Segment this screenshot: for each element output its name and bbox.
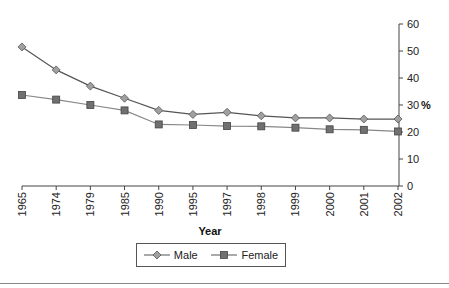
diamond-marker-icon	[52, 66, 60, 74]
series-line-male	[22, 47, 398, 119]
x-tick-label: 1990	[153, 192, 165, 216]
legend-label-male: Male	[174, 249, 198, 261]
plot-area: 1965197419791985199019951997199819992000…	[16, 18, 419, 216]
square-marker-icon	[53, 96, 60, 103]
square-marker-icon	[211, 250, 237, 260]
square-marker-icon	[258, 123, 265, 130]
square-marker-icon	[189, 121, 196, 128]
x-tick-label: 2002	[392, 192, 404, 216]
y-tick-label: 0	[407, 180, 413, 192]
square-marker-icon	[395, 128, 402, 135]
x-tick-label: 1979	[84, 192, 96, 216]
diamond-marker-icon	[394, 115, 402, 123]
x-tick-label: 2001	[358, 192, 370, 216]
square-marker-icon	[224, 123, 231, 130]
square-marker-icon	[155, 121, 162, 128]
y-tick-label: 30	[407, 99, 419, 111]
diamond-marker-icon	[86, 82, 94, 90]
x-tick-label: 1974	[50, 192, 62, 216]
x-tick-label: 1997	[221, 192, 233, 216]
legend-item-female: Female	[211, 249, 278, 261]
y-tick-label: 20	[407, 126, 419, 138]
diamond-marker-icon	[144, 250, 170, 260]
square-marker-icon	[360, 126, 367, 133]
square-marker-icon	[292, 124, 299, 131]
x-tick-label: 2000	[324, 192, 336, 216]
y-tick-label: 40	[407, 72, 419, 84]
diamond-marker-icon	[360, 115, 368, 123]
diamond-marker-icon	[155, 106, 163, 114]
diamond-marker-icon	[257, 112, 265, 120]
y-axis-title: %	[421, 99, 431, 111]
diamond-marker-icon	[189, 110, 197, 118]
diamond-marker-icon	[326, 114, 334, 122]
legend: Male Female	[136, 243, 286, 267]
y-tick-label: 10	[407, 153, 419, 165]
diamond-marker-icon	[223, 108, 231, 116]
x-tick-label: 1965	[16, 192, 28, 216]
y-tick-label: 60	[407, 18, 419, 30]
x-axis-title: Year	[198, 225, 222, 237]
square-marker-icon	[121, 107, 128, 114]
diamond-marker-icon	[18, 43, 26, 51]
x-tick-label: 1998	[255, 192, 267, 216]
legend-item-male: Male	[144, 249, 198, 261]
legend-label-female: Female	[241, 249, 278, 261]
square-marker-icon	[87, 102, 94, 109]
x-tick-label: 1995	[187, 192, 199, 216]
diamond-marker-icon	[291, 114, 299, 122]
square-marker-icon	[19, 92, 26, 99]
diamond-marker-icon	[121, 94, 129, 102]
x-tick-label: 1985	[119, 192, 131, 216]
x-tick-label: 1999	[289, 192, 301, 216]
bottom-divider	[0, 283, 449, 284]
y-tick-label: 50	[407, 45, 419, 57]
square-marker-icon	[326, 126, 333, 133]
